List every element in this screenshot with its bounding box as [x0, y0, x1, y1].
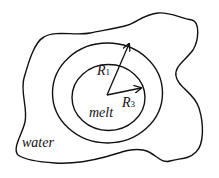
diagram-figure	[0, 0, 219, 178]
r1-arrow	[107, 44, 129, 95]
r3-arrow	[107, 88, 141, 95]
diagram: R1 R3 melt water	[0, 0, 219, 178]
r1-label: R1	[97, 64, 110, 78]
melt-label: melt	[89, 106, 113, 120]
water-label: water	[22, 136, 54, 150]
r3-label: R3	[122, 96, 135, 110]
